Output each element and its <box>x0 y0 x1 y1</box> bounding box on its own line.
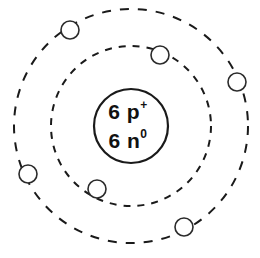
nucleus-proton-charge: + <box>140 98 148 112</box>
outer-electron-2 <box>228 73 246 91</box>
atom-diagram-canvas: 6 p+ 6 n0 <box>0 0 260 258</box>
outer-electron-3 <box>19 165 37 183</box>
nucleus-neutron-charge: 0 <box>140 127 147 141</box>
nucleus-neutron-text: 6 n <box>108 129 140 152</box>
outer-electron-1 <box>61 21 79 39</box>
outer-electron-4 <box>175 218 193 236</box>
bohr-model-figure: 6 p+ 6 n0 <box>0 0 260 258</box>
nucleus-proton-text: 6 p <box>108 100 140 123</box>
inner-electron-1 <box>151 46 169 64</box>
inner-electron-2 <box>88 180 106 198</box>
